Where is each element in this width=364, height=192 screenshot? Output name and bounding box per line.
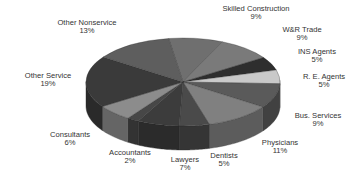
label-other-nonservice: Other Nonservice13% [57, 19, 116, 35]
label-ins-agents: INS Agents5% [298, 48, 336, 64]
label-physicians: Physicians11% [262, 139, 298, 155]
label-other-service: Other Service19% [25, 72, 71, 88]
label-consultants: Consultants6% [50, 131, 90, 147]
label-dentists: Dentists5% [210, 152, 237, 168]
pie-top-slices [86, 38, 280, 126]
label-re-agents: R. E. Agents5% [303, 73, 345, 89]
label-wr-trade: W&R Trade9% [282, 26, 321, 42]
label-lawyers: Lawyers7% [171, 156, 199, 172]
label-skilled-construction: Skilled Construction9% [222, 5, 289, 21]
pie-side-segment [179, 124, 209, 150]
label-accountants: Accountants2% [109, 149, 151, 165]
pie-side-segment [128, 118, 138, 145]
label-bus-services: Bus. Services9% [295, 112, 341, 128]
